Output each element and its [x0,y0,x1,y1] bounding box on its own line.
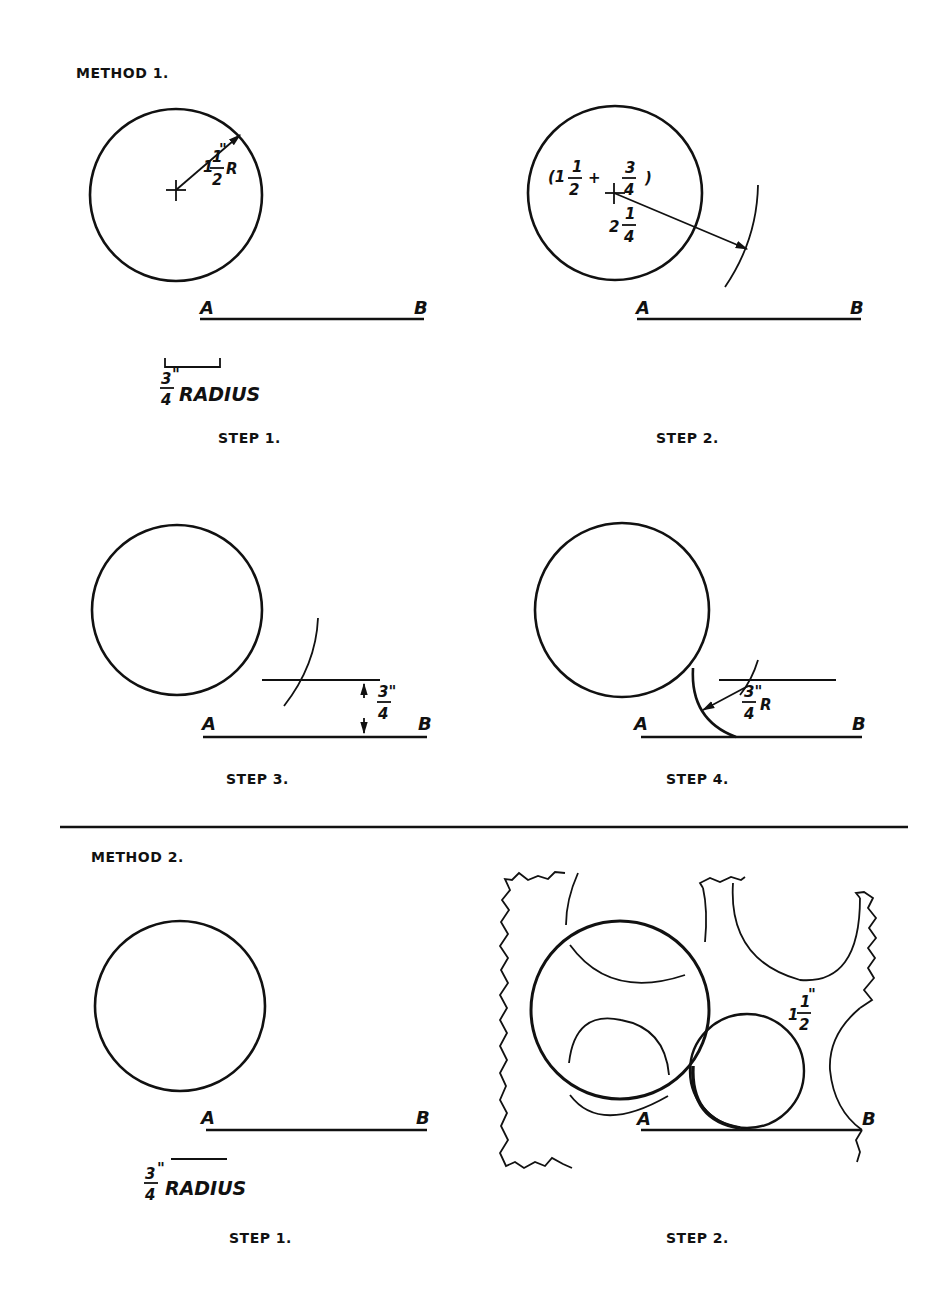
method1-step1: 1 1 " 2 R A B 3 " 4 RADIUS STEP 1. [90,109,428,446]
step-1-caption: STEP 1. [229,1230,292,1246]
inner-arc-top [570,945,685,983]
point-a-label: A [199,1107,215,1128]
step-4-caption: STEP 4. [666,771,729,787]
inner-arc-middle [569,1018,669,1075]
method-1-title: METHOD 1. [76,65,169,81]
radius-denominator: 2 [212,171,222,189]
tangent-arc-construction-diagram: METHOD 1. 1 1 " 2 R A B 3 " 4 RADIUS STE… [0,0,945,1292]
sum-denominator-2: 4 [623,181,634,199]
point-b-label: B [414,297,428,318]
sum-numerator-2: 3 [625,159,635,177]
torn-paper-top-edge [703,888,706,942]
top-semicircle-cutout [733,883,860,980]
method2-step2: A B 1 1 " 2 STEP 2. [500,872,876,1246]
point-a-label: A [200,713,216,734]
given-circle [535,523,709,697]
point-a-label: A [635,1108,651,1129]
point-b-label: B [862,1108,876,1129]
step-1-caption: STEP 1. [218,430,281,446]
given-radius-numerator: 3 [161,370,171,388]
step-2-caption: STEP 2. [666,1230,729,1246]
given-radius-denominator: 4 [160,391,171,409]
step-2-caption: STEP 2. [656,430,719,446]
radius-denominator: 2 [799,1016,809,1034]
given-radius-label: RADIUS [179,383,260,405]
radius-unit: " [219,141,227,159]
method1-step2: (1 1 2 + 3 4 ) 2 1 4 A B STEP 2. [528,106,864,446]
partial-arc [566,873,578,925]
method1-step3: 3" 4 A B STEP 3. [92,525,432,787]
step-3-caption: STEP 3. [226,771,289,787]
arc-denominator: 4 [743,705,754,723]
swing-arc [725,185,758,287]
method1-step4: 3" 4 R A B STEP 4. [535,523,866,787]
point-a-label: A [198,297,214,318]
total-whole: 2 [609,218,619,236]
arc-suffix: R [760,696,772,714]
given-radius-unit: " [172,366,180,384]
right-semicircle-cutout [830,1008,862,1130]
method2-step1: A B 3 " 4 RADIUS STEP 1. [95,921,430,1246]
given-radius-unit: " [157,1160,165,1178]
method-2-title: METHOD 2. [91,849,184,865]
point-b-label: B [850,297,864,318]
total-numerator: 1 [625,205,635,223]
sum-open: (1 [548,168,565,186]
given-radius-denominator: 4 [144,1186,155,1204]
torn-paper-bottom-right [856,1130,862,1162]
given-radius-numerator: 3 [145,1165,155,1183]
sum-denominator-1: 2 [569,181,579,199]
torn-paper-top [700,877,745,888]
point-b-label: B [852,713,866,734]
sum-numerator-1: 1 [572,158,582,176]
tangent-emphasis [693,1066,740,1128]
swing-arc [284,618,318,706]
arc-radius-arrow [703,686,748,710]
point-b-label: B [416,1107,430,1128]
point-a-label: A [634,297,650,318]
given-radius-label: RADIUS [165,1177,246,1199]
sum-close: ) [644,169,652,187]
offset-numerator: 3" [378,683,396,701]
total-denominator: 4 [623,228,634,246]
offset-denominator: 4 [377,705,388,723]
given-circle [95,921,265,1091]
torn-paper-left [500,872,572,1168]
point-b-label: B [418,713,432,734]
radius-unit: " [808,986,816,1004]
point-a-label: A [632,713,648,734]
given-circle [531,921,709,1099]
radius-suffix: R [226,160,238,178]
sum-plus: + [588,169,601,187]
radius-whole: 1 [788,1006,798,1024]
given-circle [92,525,262,695]
tangent-arc [693,668,736,737]
